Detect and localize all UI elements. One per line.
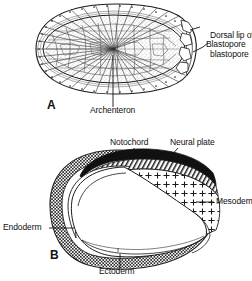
label-endoderm: Endoderm (3, 223, 41, 233)
label-notochord: Notochord (110, 138, 148, 148)
label-neural-plate: Neural plate (170, 138, 215, 148)
embryology-figure: Dorsal lip of blastopore Blastopore A Ar… (0, 0, 252, 281)
label-archenteron: Archenteron (90, 106, 135, 116)
label-dorsal-lip-line2: blastopore (210, 49, 249, 59)
label-dorsal-lip-line1: Dorsal lip of (210, 30, 252, 40)
panel-a-gastrula (35, 1, 208, 107)
label-mesoderm: Mesoderm (216, 197, 252, 207)
panel-a-letter: A (47, 98, 56, 112)
panel-b-neurula (49, 148, 220, 269)
panel-b-letter: B (50, 248, 59, 262)
label-ectoderm: Ectoderm (99, 267, 135, 277)
label-blastopore: Blastopore (206, 40, 246, 50)
